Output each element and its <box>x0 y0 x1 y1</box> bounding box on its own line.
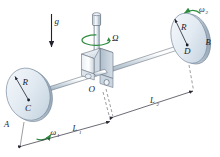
disk-left-center-dot <box>27 99 30 102</box>
yoke-bearing-hole <box>104 80 109 86</box>
horizontal-rod <box>47 43 188 91</box>
omega2-label: ω <box>199 5 205 14</box>
disk-left: R C A <box>0 63 59 129</box>
dim-L1-line <box>22 122 110 147</box>
omega1-label: ω <box>51 128 57 137</box>
disk-right-center-label: D <box>183 46 191 56</box>
vertical-shaft-group: Ω <box>82 13 119 52</box>
disk-left-face <box>0 63 57 126</box>
dim-L2-ext-left <box>106 89 113 117</box>
omega1-group: ω 1 <box>37 128 60 140</box>
omega-shaft-arrowhead <box>107 37 111 41</box>
dim-L1-subscript: 1 <box>79 130 82 135</box>
disk-right: R D B <box>165 9 216 68</box>
yoke-bracket <box>82 48 114 87</box>
yoke-left-boss <box>85 74 91 79</box>
disk-right-radius-label: R <box>180 22 187 32</box>
shaft-cap-top <box>93 13 101 16</box>
disk-left-center-label: C <box>25 103 32 113</box>
omega2-subscript: 2 <box>206 10 209 15</box>
dim-L2-ext-right <box>189 65 194 90</box>
pivot-label: O <box>89 84 96 94</box>
dim-L2-label: L <box>149 95 155 105</box>
omega-shaft-label: Ω <box>112 33 119 43</box>
dimension-L2: L 2 <box>106 65 194 117</box>
dim-L1-ext-left <box>20 122 24 147</box>
dim-L1-label: L <box>72 123 78 133</box>
disk-left-edge-label: A <box>3 119 10 129</box>
dim-L1-ext-right <box>103 92 111 121</box>
figure-canvas: g R C A ω 1 <box>0 0 220 157</box>
mechanics-figure: g R C A ω 1 <box>0 0 220 157</box>
disk-left-radius-label: R <box>22 77 29 87</box>
omega1-arrow-icon <box>37 135 52 140</box>
pivot-point: O <box>89 84 96 94</box>
gravity-vector: g <box>52 14 60 47</box>
disk-right-edge-label: B <box>206 37 211 47</box>
vertical-shaft <box>94 24 99 52</box>
gravity-label: g <box>55 16 60 26</box>
